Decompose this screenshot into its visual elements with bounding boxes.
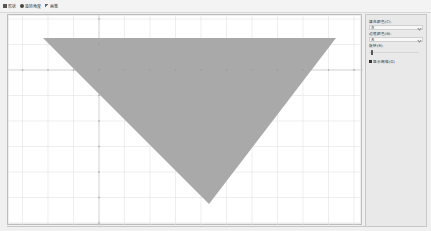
x-tick	[277, 69, 278, 70]
x-tick	[251, 69, 252, 70]
y-tick	[98, 146, 99, 147]
line-color-select[interactable]: 无	[369, 37, 423, 42]
rotate-icon	[20, 4, 24, 8]
fill-color-select[interactable]: 灰	[369, 25, 423, 30]
properties-panel: 填充颜色(C): 灰 边框颜色(B): 无 旋转(R): 显示网格(G)	[365, 14, 427, 227]
x-tick	[73, 69, 74, 70]
slider-track	[369, 52, 419, 53]
y-tick	[98, 18, 99, 19]
y-tick	[98, 171, 99, 172]
divider	[7, 226, 427, 227]
canvas-svg	[8, 15, 363, 226]
toolbar-item-label: 形状	[8, 3, 16, 9]
rotation-label: 旋转(R):	[369, 44, 423, 48]
slider-thumb[interactable]	[371, 50, 373, 55]
y-tick	[98, 222, 99, 223]
y-tick	[98, 44, 99, 45]
checkbox-box[interactable]	[369, 60, 372, 63]
toolbar-item-rotate[interactable]: 旋转角度	[20, 3, 41, 9]
fill-color-label: 填充颜色(C):	[369, 20, 423, 24]
shape-icon	[3, 4, 7, 8]
x-tick	[353, 69, 354, 70]
x-tick	[302, 69, 303, 70]
x-tick	[226, 69, 227, 70]
x-tick	[124, 69, 125, 70]
x-tick	[149, 69, 150, 70]
line-color-label: 边框颜色(B):	[369, 32, 423, 36]
y-tick	[98, 69, 99, 70]
x-tick	[175, 69, 176, 70]
drawing-canvas[interactable]	[7, 14, 362, 225]
toolbar-item-label: 画笔	[50, 3, 58, 9]
x-tick	[328, 69, 329, 70]
y-tick	[98, 95, 99, 96]
brush-icon	[45, 4, 49, 8]
rotation-slider[interactable]	[369, 49, 423, 56]
show-grid-checkbox[interactable]: 显示网格(G)	[369, 59, 423, 64]
y-tick	[98, 197, 99, 198]
toolbar: 形状 旋转角度 画笔	[0, 0, 431, 13]
x-tick	[22, 69, 23, 70]
show-grid-label: 显示网格(G)	[373, 59, 395, 64]
x-tick	[47, 69, 48, 70]
toolbar-item-shape[interactable]: 形状	[3, 3, 16, 9]
y-tick	[98, 120, 99, 121]
toolbar-item-brush[interactable]: 画笔	[45, 3, 58, 9]
toolbar-item-label: 旋转角度	[25, 3, 41, 9]
x-tick	[200, 69, 201, 70]
